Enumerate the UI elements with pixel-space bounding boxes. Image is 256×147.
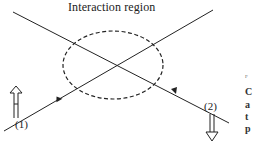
beam-2-line [13,12,229,123]
side-text-line-4: p [245,122,251,135]
up-arrow-icon [10,86,22,118]
beam-2-arrowhead [171,87,177,94]
beam-1-label: (1) [15,118,28,130]
figure-caption-fragment: F [245,74,248,79]
side-text-line-1: C [245,85,252,98]
down-arrow-icon [206,114,218,141]
interaction-diagram [0,0,256,147]
interaction-region-ellipse [63,31,163,99]
beam-1-line [4,10,213,131]
beam-2-label: (2) [204,100,217,112]
